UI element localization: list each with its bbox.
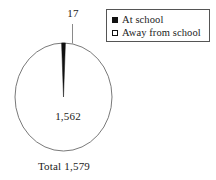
callout-value-at-school: 17 bbox=[60, 7, 86, 20]
pie-chart-figure: 17 1,562 Total 1,579 At school Away from… bbox=[0, 0, 216, 180]
slice-value-away-from-school: 1,562 bbox=[38, 110, 98, 123]
filled-square-icon bbox=[112, 17, 118, 23]
legend-item-at-school: At school bbox=[112, 13, 205, 26]
legend-label-at-school: At school bbox=[122, 13, 163, 26]
legend-item-away-from-school: Away from school bbox=[112, 26, 205, 39]
hollow-square-icon bbox=[112, 30, 118, 36]
legend-label-away-from-school: Away from school bbox=[122, 26, 201, 39]
chart-total-caption: Total 1,579 bbox=[18, 160, 110, 173]
chart-legend: At school Away from school bbox=[106, 9, 210, 42]
